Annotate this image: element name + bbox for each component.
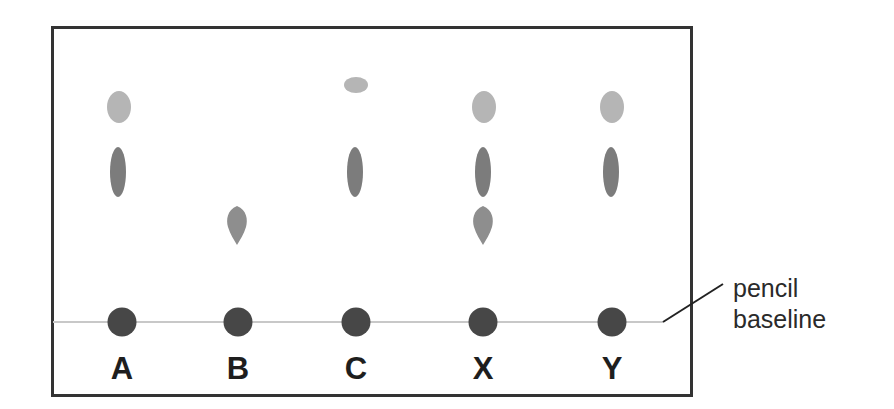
chromatogram-diagram: A B C X Y pencil baseline	[0, 0, 894, 409]
annotation-pencil: pencil	[733, 274, 798, 302]
origin-dot	[469, 308, 498, 337]
origin-dot	[598, 308, 627, 337]
lane-label-b: B	[227, 351, 249, 386]
lane-label-x: X	[473, 351, 494, 386]
spot-small-top	[344, 77, 368, 93]
lane-label-y: Y	[602, 351, 623, 386]
chromatography-paper-frame	[53, 28, 692, 396]
spot-light	[472, 91, 496, 123]
spot-dark	[347, 147, 363, 197]
origin-dot	[342, 308, 371, 337]
spot-light	[107, 91, 131, 123]
lane-label-a: A	[111, 351, 133, 386]
spot-dark	[603, 147, 619, 197]
spot-light	[600, 91, 624, 123]
lane-label-c: C	[345, 351, 367, 386]
spot-dark	[110, 147, 126, 197]
annotation-baseline: baseline	[733, 305, 826, 333]
origin-dot	[224, 308, 253, 337]
origin-dot	[108, 308, 137, 337]
spot-dark	[475, 147, 491, 197]
